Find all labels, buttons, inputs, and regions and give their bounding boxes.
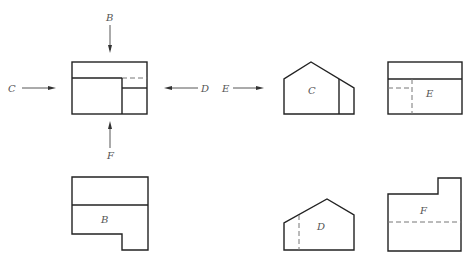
main-view xyxy=(72,62,147,114)
label-e: E xyxy=(221,83,230,94)
view-f: F xyxy=(388,178,461,251)
label-f: F xyxy=(106,150,115,161)
direction-arrow-f: F xyxy=(106,121,115,161)
arrowhead-icon xyxy=(108,45,112,53)
view-b-outline xyxy=(72,177,148,250)
arrowhead-icon xyxy=(108,121,112,129)
projection-diagram: B C D F E C E xyxy=(0,0,473,267)
view-f-label: F xyxy=(419,205,428,216)
view-d: D xyxy=(284,199,354,250)
arrowhead-icon xyxy=(48,86,56,90)
view-c-label: C xyxy=(308,85,316,96)
label-c: C xyxy=(8,83,16,94)
direction-arrow-d: D xyxy=(164,83,209,94)
label-d: D xyxy=(200,83,209,94)
view-d-label: D xyxy=(316,221,325,232)
view-c: C xyxy=(284,62,354,114)
view-b-label: B xyxy=(100,214,108,225)
direction-arrow-b: B xyxy=(105,12,113,53)
arrowhead-icon xyxy=(256,86,264,90)
direction-arrow-c: C xyxy=(8,83,56,94)
view-b: B xyxy=(72,177,148,250)
label-b: B xyxy=(105,12,113,23)
view-e: E xyxy=(388,62,462,114)
arrowhead-icon xyxy=(164,86,172,90)
view-e-label: E xyxy=(425,88,434,99)
view-c-outline xyxy=(284,62,354,114)
direction-arrow-e: E xyxy=(221,83,264,94)
